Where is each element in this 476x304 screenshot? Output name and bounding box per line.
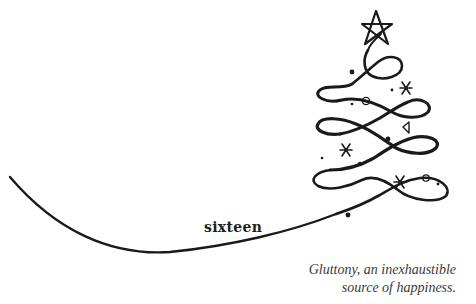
sweeping-ground-line [10,177,336,252]
swirl-tree-line [314,50,448,214]
snowflake-icon [340,144,352,156]
christmas-tree-illustration [0,0,476,304]
snowflake-icon [400,82,412,94]
triangle-ornament-icon [403,122,409,133]
epigraph: Gluttony, an inexhaustible source of hap… [309,261,456,297]
epigraph-line: source of happiness. [309,279,456,297]
epigraph-line: Gluttony, an inexhaustible [309,261,456,279]
book-page: sixteen Gluttony, an inexhaustible sourc… [0,0,476,304]
chapter-title: sixteen [204,220,262,234]
star-icon [362,11,392,50]
